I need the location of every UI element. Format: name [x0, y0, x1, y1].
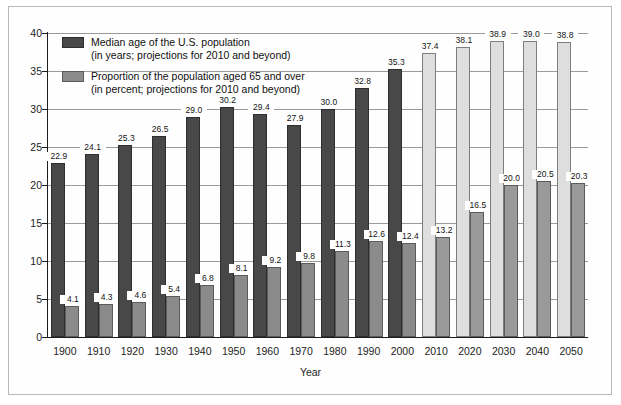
bar-senior-share	[571, 183, 585, 337]
legend-swatch	[62, 71, 84, 82]
bar-value-label: 4.1	[60, 295, 86, 304]
bar-senior-share	[537, 181, 551, 337]
x-axis-title: Year	[0, 366, 621, 378]
y-axis-tick-label: 35	[16, 66, 42, 76]
bar-senior-share	[335, 251, 349, 337]
bar-value-label: 39.0	[518, 30, 544, 39]
bar-value-label: 38.9	[485, 30, 511, 39]
y-axis-tick-label: 0	[16, 332, 42, 342]
bar-value-label: 6.8	[195, 274, 221, 283]
bar-senior-share	[99, 304, 113, 337]
bar-value-label: 11.3	[330, 240, 356, 249]
bar-value-label: 20.0	[499, 174, 525, 183]
legend-label: Median age of the U.S. population(in yea…	[91, 36, 291, 61]
bar-median-age	[355, 88, 369, 337]
legend-item: Median age of the U.S. population(in yea…	[62, 36, 382, 61]
bar-group: 38.820.3	[557, 33, 585, 337]
bar-senior-share	[267, 267, 281, 337]
bar-median-age	[456, 47, 470, 337]
bar-median-age	[220, 107, 234, 337]
bar-senior-share	[301, 263, 315, 337]
bar-group: 35.312.4	[388, 33, 416, 337]
y-axis-tick-label: 15	[16, 218, 42, 228]
legend-item: Proportion of the population aged 65 and…	[62, 70, 382, 95]
bar-median-age	[557, 42, 571, 337]
bar-value-label: 27.9	[282, 114, 308, 123]
legend-label-line2: (in years; projections for 2010 and beyo…	[91, 49, 291, 62]
legend-label-line1: Proportion of the population aged 65 and…	[91, 70, 305, 83]
y-axis-tick-label: 5	[16, 294, 42, 304]
bar-value-label: 12.4	[397, 232, 423, 241]
bar-senior-share	[234, 275, 248, 337]
bar-median-age	[490, 41, 504, 337]
bar-median-age	[51, 163, 65, 337]
bar-median-age	[287, 125, 301, 337]
bar-median-age	[152, 136, 166, 337]
bar-senior-share	[470, 212, 484, 337]
bar-value-label: 9.8	[296, 252, 322, 261]
bar-value-label: 22.9	[46, 152, 72, 161]
bar-value-label: 26.5	[147, 125, 173, 134]
bar-value-label: 20.3	[566, 172, 592, 181]
bar-median-age	[422, 53, 436, 337]
bar-value-label: 37.4	[417, 42, 443, 51]
y-axis-tick-mark	[42, 337, 48, 338]
chart-legend: Median age of the U.S. population(in yea…	[62, 36, 382, 104]
bar-senior-share	[504, 185, 518, 337]
bar-senior-share	[132, 302, 146, 337]
bar-value-label: 5.4	[161, 285, 187, 294]
bar-senior-share	[402, 243, 416, 337]
y-axis-labels: 0510152025303540	[10, 0, 42, 405]
bar-median-age	[388, 69, 402, 337]
y-axis-tick-label: 30	[16, 104, 42, 114]
bar-senior-share	[65, 306, 79, 337]
bar-median-age	[85, 154, 99, 337]
bar-senior-share	[200, 285, 214, 337]
bar-group: 37.413.2	[422, 33, 450, 337]
bar-value-label: 35.3	[383, 58, 409, 67]
bar-value-label: 12.6	[364, 230, 390, 239]
x-axis-line	[47, 337, 588, 338]
y-axis-tick-label: 20	[16, 180, 42, 190]
bar-value-label: 25.3	[113, 134, 139, 143]
bar-value-label: 4.6	[127, 291, 153, 300]
legend-label: Proportion of the population aged 65 and…	[91, 70, 305, 95]
bar-value-label: 8.1	[229, 264, 255, 273]
y-axis-tick-label: 40	[16, 28, 42, 38]
legend-label-line1: Median age of the U.S. population	[91, 36, 291, 49]
bar-value-label: 38.8	[552, 31, 578, 40]
legend-label-line2: (in percent; projections for 2010 and be…	[91, 83, 305, 96]
bar-group: 39.020.5	[523, 33, 551, 337]
bar-median-age	[118, 145, 132, 337]
chart-screenshot: 0510152025303540 22.94.124.14.325.34.626…	[0, 0, 621, 405]
bar-value-label: 38.1	[451, 36, 477, 45]
bar-value-label: 20.5	[532, 170, 558, 179]
bar-median-age	[321, 109, 335, 337]
bar-senior-share	[166, 296, 180, 337]
bar-median-age	[523, 41, 537, 337]
bar-value-label: 29.0	[181, 106, 207, 115]
bar-value-label: 4.3	[94, 293, 120, 302]
bar-value-label: 9.2	[262, 256, 288, 265]
bar-senior-share	[436, 237, 450, 337]
bar-value-label: 16.5	[465, 201, 491, 210]
y-axis-tick-label: 25	[16, 142, 42, 152]
bar-median-age	[186, 117, 200, 337]
y-axis-tick-label: 10	[16, 256, 42, 266]
bar-senior-share	[369, 241, 383, 337]
bar-value-label: 24.1	[80, 143, 106, 152]
x-axis-tick-label: 2050	[551, 345, 591, 357]
bar-value-label: 13.2	[431, 226, 457, 235]
bar-group: 38.920.0	[490, 33, 518, 337]
bar-group: 38.116.5	[456, 33, 484, 337]
bar-median-age	[253, 114, 267, 337]
legend-swatch	[62, 37, 84, 48]
